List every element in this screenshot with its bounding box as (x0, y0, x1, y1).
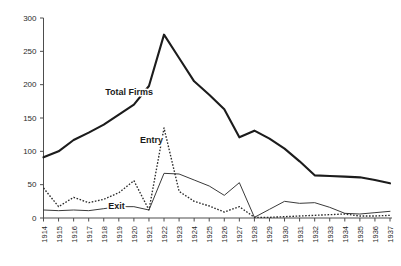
x-tick-label: 1925 (205, 226, 214, 243)
x-tick-label: 1937 (386, 226, 395, 243)
y-tick-label: 200 (23, 80, 37, 89)
series-line-exit (44, 173, 391, 217)
x-tick-label: 1918 (100, 226, 109, 243)
x-tick-label: 1923 (175, 226, 184, 243)
y-tick-label: 300 (23, 14, 37, 23)
x-tick-label: 1926 (220, 226, 229, 243)
y-tick-label: 150 (23, 114, 37, 123)
x-tick-label: 1914 (40, 226, 49, 243)
x-tick-label: 1916 (70, 226, 79, 243)
x-tick-label: 1924 (190, 226, 199, 243)
x-tick-label: 1921 (145, 226, 154, 243)
x-tick-label: 1919 (115, 226, 124, 243)
x-tick-label: 1936 (371, 226, 380, 243)
x-tick-label: 1927 (235, 226, 244, 243)
x-tick-label: 1934 (341, 226, 350, 243)
y-axis-ticks: 050100150200250300 (23, 14, 43, 223)
x-tick-label: 1931 (296, 226, 305, 243)
y-tick-label: 50 (28, 180, 37, 189)
series-line-entry (44, 128, 391, 217)
line-chart: 050100150200250300 191419151916191719181… (0, 0, 401, 266)
series-label-entry: Entry (140, 135, 163, 145)
x-tick-label: 1915 (55, 226, 64, 243)
x-tick-label: 1933 (326, 226, 335, 243)
x-tick-label: 1920 (130, 226, 139, 243)
x-tick-label: 1929 (265, 226, 274, 243)
series-label-exit: Exit (108, 201, 125, 211)
x-axis-ticks: 1914191519161917191819191920192119221923… (40, 218, 396, 243)
x-tick-label: 1922 (160, 226, 169, 243)
x-tick-label: 1917 (85, 226, 94, 243)
y-tick-label: 0 (32, 214, 37, 223)
series-line-total-firms (44, 35, 391, 184)
x-tick-label: 1932 (311, 226, 320, 243)
y-tick-label: 100 (23, 147, 37, 156)
chart-container: 050100150200250300 191419151916191719181… (0, 0, 401, 266)
x-tick-label: 1935 (356, 226, 365, 243)
y-tick-label: 250 (23, 47, 37, 56)
x-tick-label: 1930 (281, 226, 290, 243)
x-tick-label: 1928 (250, 226, 259, 243)
series-label-total-firms: Total Firms (105, 87, 153, 97)
